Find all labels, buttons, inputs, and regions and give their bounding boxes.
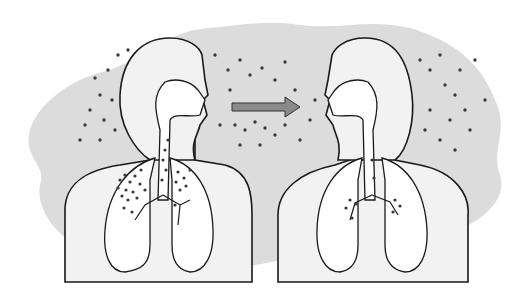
diagram-canvas <box>0 0 531 300</box>
inhalation-diagram <box>0 0 531 300</box>
